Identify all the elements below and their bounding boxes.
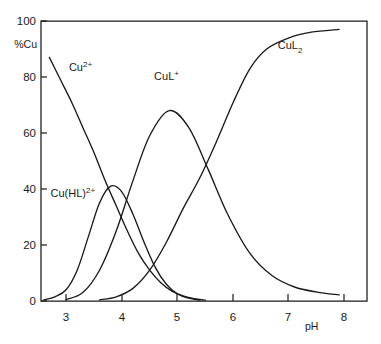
curve-cul2 (100, 29, 340, 299)
series-annotations: Cu2+ Cu(HL)2+ CuL+ CuL2 (51, 39, 303, 199)
label-cul-plus: CuL+ (154, 69, 179, 82)
label-cul-plus-sup: + (174, 69, 179, 78)
label-cul-plus-base: CuL (154, 70, 174, 82)
curve-cu-hl-2plus (44, 186, 200, 301)
chart-canvas: 0 20 40 60 80 100 %Cu 3 4 5 6 7 8 p (0, 0, 381, 344)
label-cul2-base: CuL (278, 39, 298, 51)
label-cul2-sub: 2 (298, 46, 303, 55)
y-tick-label-60: 60 (23, 127, 36, 139)
y-tick-label-100: 100 (17, 15, 36, 27)
series-curves (44, 29, 339, 300)
curve-cul-plus (66, 110, 339, 299)
label-cu-hl-2plus-sup: 2+ (86, 186, 95, 195)
label-cu2plus-sup: 2+ (83, 60, 92, 69)
speciation-diagram: 0 20 40 60 80 100 %Cu 3 4 5 6 7 8 p (0, 0, 381, 344)
label-cul2: CuL2 (278, 39, 303, 55)
label-cu-hl-2plus: Cu(HL)2+ (51, 186, 96, 199)
y-tick-label-0: 0 (30, 295, 36, 307)
label-cu-hl-2plus-base: Cu(HL) (51, 187, 86, 199)
x-tick-label-6: 6 (230, 311, 236, 323)
label-cu2plus-base: Cu (69, 61, 83, 73)
label-cu2plus: Cu2+ (69, 60, 93, 73)
y-tick-label-20: 20 (23, 239, 36, 251)
y-tick-label-40: 40 (23, 183, 36, 195)
y-tick-label-80: 80 (23, 71, 36, 83)
y-axis-title: %Cu (14, 38, 37, 50)
y-axis-ticks (41, 21, 47, 301)
y-axis-labels: 0 20 40 60 80 100 (17, 15, 36, 307)
x-tick-label-7: 7 (285, 311, 291, 323)
x-tick-label-4: 4 (119, 311, 126, 323)
x-tick-label-8: 8 (341, 311, 347, 323)
curve-cu2plus (49, 57, 205, 300)
x-tick-label-5: 5 (174, 311, 180, 323)
x-axis-title: pH (305, 320, 318, 332)
x-tick-label-3: 3 (63, 311, 69, 323)
